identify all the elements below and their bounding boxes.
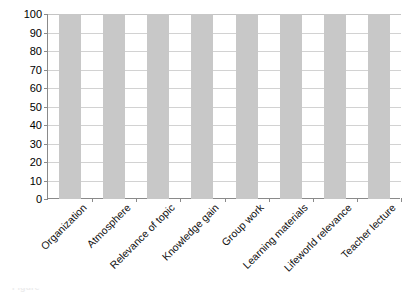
bar-chart-figure: 0102030405060708090100 OrganizationAtmos… [0,0,420,297]
y-axis-tick-label: 70 [2,64,42,75]
bar [280,14,302,199]
y-axis-tick-label: 90 [2,27,42,38]
y-axis-tick-label: 30 [2,138,42,149]
x-axis-category-label: Organization [39,202,89,252]
plot-area: 0102030405060708090100 [47,14,400,199]
bar [59,14,81,199]
y-axis-tick-label: 0 [2,194,42,205]
bars-group [48,14,401,199]
cropped-caption-sliver: Figure [0,288,420,297]
y-axis-tick-label: 20 [2,157,42,168]
y-axis-tick-label: 10 [2,175,42,186]
y-axis-tick-label: 100 [2,9,42,20]
x-axis-category-label: Group work [219,202,265,248]
bar [147,14,169,199]
bar [103,14,125,199]
y-axis-tick-label: 60 [2,83,42,94]
bar [324,14,346,199]
bar [368,14,390,199]
caption-text: Figure [12,288,40,292]
y-axis-tick [44,199,48,200]
x-axis-category-labels: OrganizationAtmosphereRelevance of topic… [47,202,420,297]
y-axis-tick-label: 40 [2,120,42,131]
bar [191,14,213,199]
bar [236,14,258,199]
y-axis-tick-label: 80 [2,46,42,57]
y-axis-tick-label: 50 [2,101,42,112]
